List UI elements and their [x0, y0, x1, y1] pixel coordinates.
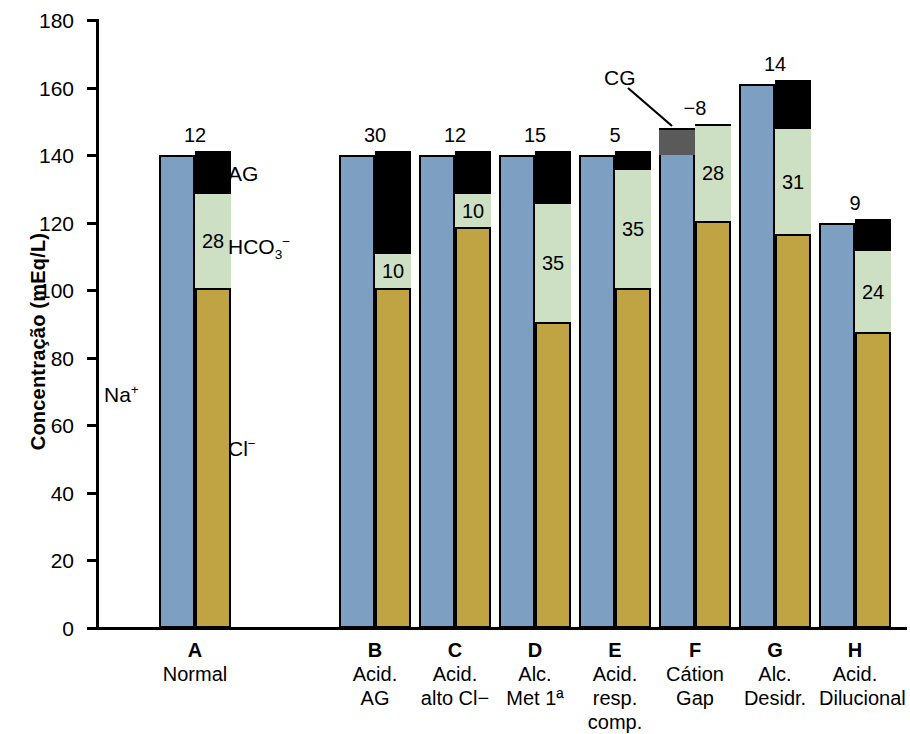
y-tick-120: 120: [0, 213, 96, 234]
segment-anion-gap: [195, 151, 231, 194]
y-tick-label: 60: [22, 415, 74, 436]
bar-group-h[interactable]: 249: [819, 20, 891, 628]
bicarbonate-value-label: 35: [617, 219, 649, 239]
anion-gap-value-label-e: 5: [579, 124, 651, 147]
cation-column-g[interactable]: [739, 84, 775, 628]
bar-group-a[interactable]: 2812: [159, 20, 231, 628]
y-tick-40: 40: [0, 483, 96, 504]
cation-column-b[interactable]: [339, 155, 375, 628]
bicarbonate-value-label: 35: [537, 253, 569, 273]
category-letter: B: [339, 638, 411, 662]
x-axis-label-b: BAcid.AG: [339, 638, 411, 710]
y-tick-label: 180: [22, 10, 74, 31]
bicarbonate-value-label: 31: [777, 172, 809, 192]
y-tick-0: 0: [0, 618, 96, 639]
y-tick-mark: [87, 87, 96, 90]
category-letter: E: [579, 638, 651, 662]
y-tick-mark: [87, 154, 96, 157]
anion-gap-value-label-d: 15: [499, 124, 571, 147]
y-tick-label: 80: [22, 348, 74, 369]
cation-column-d[interactable]: [499, 155, 535, 628]
y-tick-20: 20: [0, 550, 96, 571]
bar-group-f[interactable]: 28−8: [659, 20, 731, 628]
anion-column-e[interactable]: 35: [615, 155, 651, 628]
category-caption-line: Alc.: [499, 662, 571, 686]
category-caption-line: resp.: [579, 686, 651, 710]
y-tick-mark: [87, 492, 96, 495]
category-caption-line: alto Cl−: [419, 686, 491, 710]
y-tick-mark: [87, 424, 96, 427]
category-caption-line: Gap: [659, 686, 731, 710]
bar-group-c[interactable]: 1012: [419, 20, 491, 628]
cation-column-h[interactable]: [819, 223, 855, 628]
category-letter: F: [659, 638, 731, 662]
category-caption-line: Acid.: [819, 662, 891, 686]
anion-gap-value-label-b: 30: [339, 124, 411, 147]
category-caption-line: Acid.: [579, 662, 651, 686]
segment-anion-gap: [535, 151, 571, 204]
bicarbonate-value-label: 28: [697, 163, 729, 183]
x-axis-label-e: EAcid.resp.comp.: [579, 638, 651, 734]
annotation-anion-gap: AG: [228, 162, 258, 186]
anion-column-b[interactable]: 10: [375, 155, 411, 628]
category-letter: C: [419, 638, 491, 662]
cation-column-e[interactable]: [579, 155, 615, 628]
category-caption-line: Desidr.: [739, 686, 811, 710]
annotation-sodium: Na+: [104, 383, 139, 407]
anion-gap-value-label-c: 12: [419, 124, 491, 147]
y-tick-label: 40: [22, 483, 74, 504]
anion-column-a[interactable]: 28: [195, 155, 231, 628]
cation-column-a[interactable]: [159, 155, 195, 628]
anion-column-f[interactable]: 28: [695, 128, 731, 628]
y-tick-label: 100: [22, 280, 74, 301]
category-caption-line: comp.: [579, 710, 651, 734]
bicarbonate-value-label: 28: [197, 231, 229, 251]
y-tick-60: 60: [0, 415, 96, 436]
y-axis-ticks: 180160140120100806040200: [0, 0, 96, 725]
bar-group-d[interactable]: 3515: [499, 20, 571, 628]
category-letter: G: [739, 638, 811, 662]
anion-column-h[interactable]: 24: [855, 223, 891, 628]
x-axis-label-a: ANormal: [159, 638, 231, 686]
y-tick-180: 180: [0, 10, 96, 31]
segment-anion-gap: [855, 219, 891, 251]
category-caption-line: Acid.: [419, 662, 491, 686]
y-tick-mark: [87, 357, 96, 360]
y-tick-80: 80: [0, 348, 96, 369]
bar-group-g[interactable]: 3114: [739, 20, 811, 628]
y-tick-160: 160: [0, 78, 96, 99]
y-tick-label: 140: [22, 145, 74, 166]
x-axis-label-h: HAcid.Dilucional: [819, 638, 891, 710]
segment-anion-gap: [455, 151, 491, 194]
anion-column-c[interactable]: 10: [455, 155, 491, 628]
category-letter: D: [499, 638, 571, 662]
bicarbonate-value-label: 10: [457, 201, 489, 221]
category-caption-line: Met 1ª: [499, 686, 571, 710]
anion-gap-value-label-a: 12: [159, 124, 231, 147]
bar-group-b[interactable]: 1030: [339, 20, 411, 628]
category-caption-line: AG: [339, 686, 411, 710]
bar-group-e[interactable]: 355: [579, 20, 651, 628]
y-tick-label: 20: [22, 550, 74, 571]
anion-gap-value-label-f: −8: [659, 97, 731, 120]
segment-cation-gap: [659, 128, 695, 155]
x-axis-label-c: CAcid.alto Cl−: [419, 638, 491, 710]
cation-column-c[interactable]: [419, 155, 455, 628]
cation-column-f[interactable]: [659, 128, 695, 628]
y-tick-140: 140: [0, 145, 96, 166]
category-caption-line: Normal: [159, 662, 231, 686]
segment-anion-gap: [615, 151, 651, 170]
annotation-bicarbonate: HCO3−: [228, 235, 290, 259]
segment-anion-gap: [375, 151, 411, 254]
y-tick-mark: [87, 19, 96, 22]
anion-column-d[interactable]: 35: [535, 155, 571, 628]
segment-anion-gap: [775, 80, 811, 129]
category-letter: A: [159, 638, 231, 662]
y-tick-100: 100: [0, 280, 96, 301]
y-tick-mark: [87, 222, 96, 225]
anion-column-g[interactable]: 31: [775, 84, 811, 628]
category-caption-line: Acid.: [339, 662, 411, 686]
x-axis-label-d: DAlc.Met 1ª: [499, 638, 571, 710]
y-tick-label: 0: [22, 618, 74, 639]
